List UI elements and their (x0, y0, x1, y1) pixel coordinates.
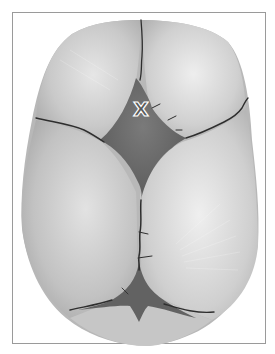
skull-illustration: X (0, 0, 275, 354)
label-x: X (133, 97, 149, 121)
